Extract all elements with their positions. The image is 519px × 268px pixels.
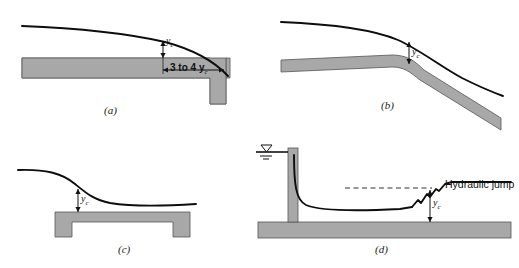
panel-b-yc-label: yc — [412, 46, 420, 60]
panel-d-yc-arrow-up — [427, 190, 432, 195]
panel-c-yc-arrow-down — [75, 207, 80, 212]
critical-depth-figure: yc 3 to 4 yc (a) yc (b) yc (c) yc Hydrau… — [0, 0, 519, 268]
panel-d-graphics — [256, 145, 511, 238]
panel-c-yc-label: yc — [81, 193, 89, 207]
figure-svg — [0, 0, 519, 268]
panel-c-graphics — [18, 170, 196, 237]
panel-a-label: (a) — [104, 104, 117, 116]
panel-b-channel-bed — [281, 55, 501, 130]
panel-d-water-surface-triangle-icon — [261, 145, 272, 152]
panel-d-sluice-gate — [288, 148, 298, 222]
panel-d-supercritical-surface — [294, 155, 412, 210]
panel-d-yc-arrow-down — [427, 217, 432, 222]
panel-b-label: (b) — [381, 99, 394, 111]
panel-d-channel-bed — [258, 222, 511, 238]
panel-c-sill — [55, 212, 190, 237]
panel-b-graphics — [281, 22, 503, 130]
panel-a-dimension-label: 3 to 4 yc — [170, 62, 208, 76]
panel-d-hydraulic-jump-label: Hydraulic jump — [445, 178, 514, 190]
panel-c-yc-arrow-up — [75, 189, 80, 194]
panel-c-label: (c) — [118, 243, 130, 255]
panel-d-yc-label: yc — [433, 197, 441, 211]
panel-a-yc-label: yc — [166, 35, 174, 49]
panel-d-label: (d) — [375, 243, 388, 255]
panel-c-water-surface — [18, 170, 196, 206]
panel-a-yc-arrow-down — [160, 53, 165, 58]
